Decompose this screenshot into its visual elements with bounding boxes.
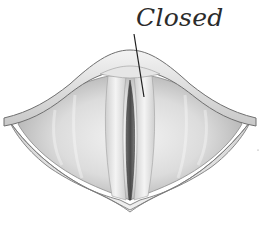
vocal-folds-diagram: Closed [0, 0, 259, 236]
vocal-folds-illustration [0, 0, 259, 236]
closed-label: Closed [136, 4, 224, 32]
